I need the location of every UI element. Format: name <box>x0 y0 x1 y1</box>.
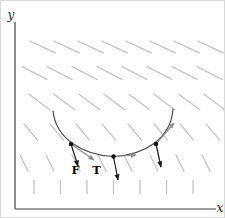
field-segment <box>122 67 147 80</box>
curve-point-dot <box>111 154 115 158</box>
force-right-arrow <box>156 144 161 167</box>
field-segment <box>204 94 225 110</box>
field-segment <box>179 94 200 110</box>
field-segment <box>198 41 223 53</box>
field-segment <box>24 124 37 140</box>
direction-field-figure: y x F T <box>1 1 225 218</box>
field-segment <box>22 67 47 80</box>
field-segment <box>102 124 115 140</box>
field-segment <box>46 155 54 171</box>
field-segment <box>150 41 175 53</box>
tension-vector-label: T <box>92 163 101 177</box>
field-segment <box>102 41 127 53</box>
force-vector-label: F <box>71 163 80 177</box>
field-segment <box>97 67 122 80</box>
y-axis-label: y <box>7 8 15 22</box>
axes: y x <box>7 8 224 215</box>
field-segment <box>126 41 151 53</box>
curve-points <box>69 142 158 159</box>
field-segment <box>124 155 132 171</box>
force-bottom-arrow <box>114 157 119 181</box>
field-segment <box>76 124 89 140</box>
field-segment <box>29 94 50 110</box>
field-segment <box>176 155 184 171</box>
field-segment <box>206 124 219 140</box>
x-axis-label: x <box>217 201 224 215</box>
curve-point-dot <box>154 142 158 146</box>
field-segment <box>47 67 72 80</box>
tension-right-arrow <box>156 123 174 144</box>
field-segment <box>129 94 150 110</box>
direction-field <box>20 41 225 193</box>
field-segment <box>180 124 193 140</box>
field-segment <box>30 41 55 53</box>
field-segment <box>54 94 75 110</box>
field-segment <box>128 124 141 140</box>
field-segment <box>150 155 158 171</box>
field-segment <box>174 41 199 53</box>
field-segment <box>147 67 172 80</box>
field-segment <box>78 41 103 53</box>
field-segment <box>79 94 100 110</box>
field-segment <box>72 67 97 80</box>
hanging-cable-curve <box>53 109 173 157</box>
tension-bottom-arrow <box>114 155 137 157</box>
curve-point-dot <box>69 142 73 146</box>
field-segment <box>172 67 197 80</box>
field-segment <box>154 94 175 110</box>
figure-page: y x F T <box>0 0 225 218</box>
field-segment <box>54 41 79 53</box>
field-segment <box>202 155 210 171</box>
field-segment <box>197 67 222 80</box>
field-segment <box>20 155 28 171</box>
field-segment <box>104 94 125 110</box>
